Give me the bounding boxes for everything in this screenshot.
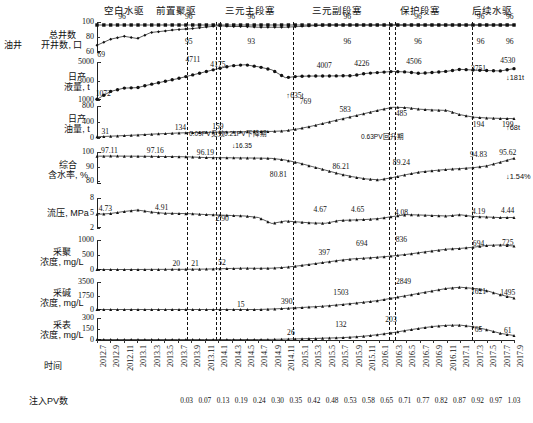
data-label: 2849 bbox=[396, 278, 411, 286]
x-tick-label: 2016.3 bbox=[396, 345, 404, 367]
x-tick-mark bbox=[406, 340, 407, 343]
x-tick-mark bbox=[137, 340, 138, 343]
data-label: 96 bbox=[414, 38, 422, 46]
pv-value: 0.42 bbox=[308, 396, 321, 405]
x-tick-mark bbox=[474, 340, 475, 343]
pv-value: 0.24 bbox=[253, 396, 266, 405]
pv-value: 0.03 bbox=[180, 396, 193, 405]
x-tick-mark bbox=[299, 340, 300, 343]
data-label: 95.62 bbox=[499, 149, 516, 157]
data-label: 96 bbox=[343, 13, 351, 21]
data-label: 4007 bbox=[317, 62, 332, 70]
x-tick-label: 2012.11 bbox=[127, 345, 135, 371]
x-tick-mark bbox=[353, 340, 354, 343]
y-tick-label: 8 bbox=[90, 194, 94, 202]
data-label: 95 bbox=[185, 38, 193, 46]
x-tick-label: 2014.3 bbox=[235, 345, 243, 367]
x-tick-label: 2015.5 bbox=[329, 345, 337, 367]
data-label: 583 bbox=[339, 106, 350, 114]
panel-daily-liquid: 100030005000 bbox=[97, 62, 514, 100]
phase-boundary-5 bbox=[395, 22, 396, 340]
x-tick-label: 2013.11 bbox=[208, 345, 216, 371]
x-tick-label: 2016.1 bbox=[382, 345, 390, 367]
panel-produced-alkali: 017503500 bbox=[97, 282, 514, 310]
x-axis-line bbox=[97, 340, 514, 341]
series-plot bbox=[97, 152, 514, 184]
data-label: 20 bbox=[172, 260, 180, 268]
data-label: 4.08 bbox=[395, 209, 408, 217]
x-tick-label: 2017.9 bbox=[517, 345, 525, 367]
y-tick-label: 500 bbox=[82, 251, 94, 259]
phase-label-3: 三元副段塞 bbox=[312, 3, 362, 17]
x-tick-mark bbox=[420, 340, 421, 343]
y-tick-label: 0 bbox=[90, 336, 94, 344]
x-tick-label: 2016.9 bbox=[436, 345, 444, 367]
data-label: 69 bbox=[97, 51, 105, 59]
data-label: 96 bbox=[185, 13, 193, 21]
pv-value: 0.92 bbox=[471, 396, 484, 405]
data-label: 390 bbox=[281, 298, 292, 306]
x-tick-label: 2017.7 bbox=[504, 345, 512, 367]
data-label-liquid-delta: ↑635t bbox=[286, 92, 303, 100]
x-tick-label: 2017.5 bbox=[490, 345, 498, 367]
y-tick-label: 400 bbox=[82, 118, 94, 126]
pv-value: 0.87 bbox=[453, 396, 466, 405]
data-label: 2.90 bbox=[215, 215, 228, 223]
panel-water-cut: 8090100 bbox=[97, 152, 514, 184]
pv-value: 0.07 bbox=[198, 396, 211, 405]
data-label: 96 bbox=[414, 13, 422, 21]
data-label: 31 bbox=[102, 128, 110, 136]
row-label-total-open-wells: 总井数开井数, 口 bbox=[30, 30, 94, 50]
x-tick-mark bbox=[124, 340, 125, 343]
x-tick-mark bbox=[447, 340, 448, 343]
x-tick-mark bbox=[393, 340, 394, 343]
data-label: 96 bbox=[506, 13, 514, 21]
y-tick-label: 80 bbox=[86, 177, 94, 185]
right-note-water: ↓1.54% bbox=[506, 172, 531, 181]
x-tick-mark bbox=[218, 340, 219, 343]
pv-value: 0.13 bbox=[217, 396, 230, 405]
x-tick-label: 2013.7 bbox=[181, 345, 189, 367]
series-plot bbox=[97, 240, 514, 270]
x-tick-mark bbox=[164, 340, 165, 343]
phase-boundary-3 bbox=[293, 22, 294, 340]
y-tick-label: 0 bbox=[90, 266, 94, 274]
x-tick-label: 2012.7 bbox=[100, 345, 108, 367]
x-tick-mark bbox=[272, 340, 273, 343]
pv-value: 0.65 bbox=[380, 396, 393, 405]
pv-value: 0.58 bbox=[362, 396, 375, 405]
pv-value: 0.19 bbox=[235, 396, 248, 405]
data-label: 97.16 bbox=[147, 147, 164, 155]
y-tick-label: 3000 bbox=[78, 77, 94, 85]
pv-value: 0.82 bbox=[435, 396, 448, 405]
panel-total-open-wells: 6080100 bbox=[97, 22, 514, 52]
x-tick-label: 2015.3 bbox=[315, 345, 323, 367]
data-label: 4.65 bbox=[351, 206, 364, 214]
y-tick-label: 0 bbox=[90, 134, 94, 142]
x-tick-label: 2014.1 bbox=[221, 345, 229, 367]
pv-value: 0.35 bbox=[289, 396, 302, 405]
x-tick-label: 2016.5 bbox=[409, 345, 417, 367]
pv-value: 1.03 bbox=[508, 396, 521, 405]
data-label: 4175 bbox=[210, 61, 225, 69]
x-tick-mark bbox=[433, 340, 434, 343]
phase-boundary-4 bbox=[389, 22, 390, 340]
y-tick-label: 150 bbox=[82, 325, 94, 333]
data-label: 836 bbox=[396, 236, 407, 244]
data-label: 80.81 bbox=[270, 171, 287, 179]
chart-figure: 空白水驱前置聚驱三元主段塞三元副段塞保护段塞后续水驱 油井 总井数开井数, 口日… bbox=[0, 0, 533, 423]
x-tick-mark bbox=[178, 340, 179, 343]
x-tick-label: 2014.5 bbox=[248, 345, 256, 367]
x-tick-mark bbox=[379, 340, 380, 343]
data-label: 1495 bbox=[500, 289, 515, 297]
x-tick-mark bbox=[514, 340, 515, 343]
data-label: 4530 bbox=[500, 57, 515, 65]
y-tick-label: 100 bbox=[82, 18, 94, 26]
data-label: 96.19 bbox=[197, 149, 214, 157]
data-label: 725 bbox=[502, 239, 513, 247]
panel-produced-polymer: 05001000 bbox=[97, 240, 514, 270]
data-label: 21 bbox=[191, 260, 199, 268]
x-tick-label: 2016.11 bbox=[450, 345, 458, 371]
phase-boundary-2 bbox=[220, 22, 221, 340]
data-label: 397 bbox=[319, 249, 330, 257]
